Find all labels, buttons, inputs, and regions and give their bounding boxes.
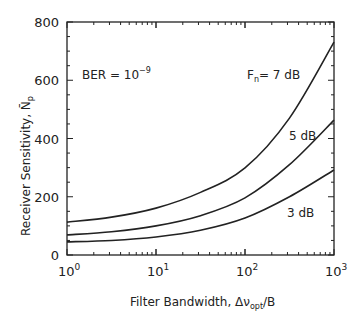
y-axis-label: Receiver Sensitivity, N̄p <box>19 96 35 236</box>
series-label-7db: Fn= 7 dB <box>247 68 300 84</box>
x-tick-label: 100 <box>58 262 81 279</box>
ber-annotation: BER = 10−9 <box>82 66 151 82</box>
x-tick-labels: 100101102103 <box>58 262 347 279</box>
x-tick-label: 103 <box>325 262 347 279</box>
x-axis-label: Filter Bandwidth, Δνopt/B <box>130 295 275 311</box>
y-tick-label: 800 <box>34 15 59 30</box>
x-tick-label: 101 <box>147 262 169 279</box>
x-tick-label: 102 <box>236 262 258 279</box>
y-tick-labels: 0200400600800 <box>34 15 59 263</box>
y-tick-label: 400 <box>34 132 59 147</box>
y-tick-label: 0 <box>51 248 59 263</box>
receiver-sensitivity-chart: 0200400600800 100101102103 BER = 10−9 Fn… <box>0 0 360 322</box>
y-tick-label: 600 <box>34 73 59 88</box>
chart-canvas: 0200400600800 100101102103 BER = 10−9 Fn… <box>0 0 360 322</box>
series-label-5db: 5 dB <box>289 129 316 143</box>
y-tick-label: 200 <box>34 190 59 205</box>
series-label-3db: 3 dB <box>287 206 314 220</box>
